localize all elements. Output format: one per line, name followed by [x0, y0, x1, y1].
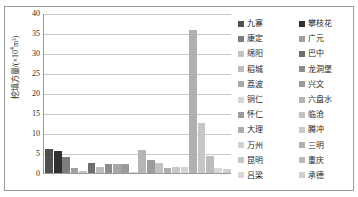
- legend-swatch-icon: [238, 127, 244, 133]
- legend-label: 兴文: [308, 80, 324, 89]
- legend-swatch-icon: [299, 81, 305, 87]
- bar: [121, 164, 129, 173]
- bar: [54, 151, 62, 173]
- legend-item[interactable]: 重庆: [299, 153, 354, 168]
- legend-label: 龙洞堡: [308, 65, 332, 74]
- legend-label: 六盘水: [308, 95, 332, 104]
- bar: [206, 156, 214, 173]
- legend-label: 临沧: [308, 110, 324, 119]
- legend-item[interactable]: 康定: [238, 31, 293, 46]
- y-tick-label: 30: [18, 50, 40, 58]
- legend-item[interactable]: 荔波: [238, 77, 293, 92]
- legend-label: 巴中: [308, 49, 324, 58]
- legend-item[interactable]: 临沧: [299, 107, 354, 122]
- legend-item[interactable]: 承德: [299, 168, 354, 183]
- legend-swatch-icon: [238, 112, 244, 118]
- legend-swatch-icon: [299, 36, 305, 42]
- y-tick-label: 25: [18, 70, 40, 78]
- y-tick-label: 15: [18, 110, 40, 118]
- legend-label: 怀仁: [247, 110, 263, 119]
- bar: [155, 163, 163, 173]
- y-tick-label: 5: [18, 150, 40, 158]
- legend-swatch-icon: [238, 51, 244, 57]
- legend-item[interactable]: 广元: [299, 31, 354, 46]
- bar: [223, 169, 231, 173]
- legend-swatch-icon: [238, 97, 244, 103]
- bar: [88, 163, 96, 173]
- bar: [181, 167, 189, 173]
- legend-item[interactable]: 吕梁: [238, 168, 293, 183]
- y-axis-tick-labels: 4035302520151050: [18, 14, 40, 174]
- legend-label: 重庆: [308, 156, 324, 165]
- plot-area: [43, 14, 231, 174]
- bar: [147, 160, 155, 173]
- legend-label: 稻城: [247, 65, 263, 74]
- bar: [130, 172, 138, 173]
- legend-swatch-icon: [299, 157, 305, 163]
- y-tick-label: 0: [18, 170, 40, 178]
- legend-item[interactable]: 稻城: [238, 62, 293, 77]
- y-tick-label: 20: [18, 90, 40, 98]
- legend-item[interactable]: 腾冲: [299, 122, 354, 137]
- legend-column-left: 九寨康定绵阳稻城荔波铜仁怀仁大理万州昆明吕梁: [238, 16, 293, 184]
- legend-swatch-icon: [238, 36, 244, 42]
- legend-swatch-icon: [299, 21, 305, 27]
- legend-swatch-icon: [299, 142, 305, 148]
- legend-item[interactable]: 怀仁: [238, 107, 293, 122]
- legend-label: 康定: [247, 34, 263, 43]
- legend-label: 承德: [308, 171, 324, 180]
- legend-swatch-icon: [299, 97, 305, 103]
- legend-swatch-icon: [238, 81, 244, 87]
- legend-label: 广元: [308, 34, 324, 43]
- bar-chart-figure: 挖填方量/(×104m³) 4035302520151050 九寨康定绵阳稻城荔…: [0, 0, 358, 197]
- legend-item[interactable]: 九寨: [238, 16, 293, 31]
- legend-item[interactable]: 龙洞堡: [299, 62, 354, 77]
- bar: [62, 157, 70, 173]
- y-tick-label: 35: [18, 30, 40, 38]
- bar: [172, 167, 180, 173]
- legend-label: 吕梁: [247, 171, 263, 180]
- legend-swatch-icon: [299, 51, 305, 57]
- legend-label: 三明: [308, 141, 324, 150]
- bar: [189, 30, 197, 173]
- bar: [113, 164, 121, 173]
- bar: [198, 123, 206, 173]
- bar-series: [45, 13, 231, 173]
- legend-item[interactable]: 攀枝花: [299, 16, 354, 31]
- bar: [71, 168, 79, 173]
- bar: [138, 150, 146, 173]
- legend-item[interactable]: 六盘水: [299, 92, 354, 107]
- legend-item[interactable]: 三明: [299, 138, 354, 153]
- bar: [164, 168, 172, 173]
- legend-swatch-icon: [299, 112, 305, 118]
- legend-swatch-icon: [238, 66, 244, 72]
- legend-label: 大理: [247, 125, 263, 134]
- legend-swatch-icon: [299, 66, 305, 72]
- legend-swatch-icon: [238, 142, 244, 148]
- legend-swatch-icon: [238, 21, 244, 27]
- bar: [214, 168, 222, 173]
- legend-label: 万州: [247, 141, 263, 150]
- y-tick-label: 40: [18, 10, 40, 18]
- legend-item[interactable]: 绵阳: [238, 46, 293, 61]
- legend-item[interactable]: 兴文: [299, 77, 354, 92]
- bar: [45, 149, 53, 173]
- legend-item[interactable]: 万州: [238, 138, 293, 153]
- y-axis-title-exponent: 4: [9, 47, 15, 50]
- legend-label: 攀枝花: [308, 19, 332, 28]
- legend-item[interactable]: 巴中: [299, 46, 354, 61]
- legend-label: 荔波: [247, 80, 263, 89]
- legend-label: 腾冲: [308, 125, 324, 134]
- legend-label: 九寨: [247, 19, 263, 28]
- bar: [96, 167, 104, 173]
- bar: [105, 164, 113, 173]
- legend-label: 绵阳: [247, 49, 263, 58]
- legend-swatch-icon: [238, 172, 244, 178]
- legend-item[interactable]: 铜仁: [238, 92, 293, 107]
- legend-item[interactable]: 大理: [238, 122, 293, 137]
- y-tick-label: 10: [18, 130, 40, 138]
- legend-label: 昆明: [247, 156, 263, 165]
- bar: [79, 171, 87, 173]
- legend-item[interactable]: 昆明: [238, 153, 293, 168]
- legend-label: 铜仁: [247, 95, 263, 104]
